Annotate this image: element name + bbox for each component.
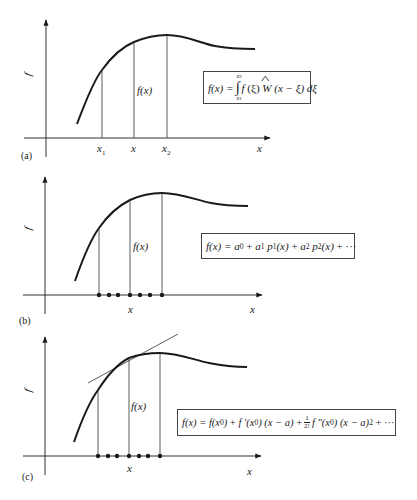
panel-a-tick-x: x (130, 142, 136, 154)
sample-point (128, 293, 132, 297)
panel-c-tangent-line (88, 334, 178, 383)
sample-point (106, 454, 110, 458)
sample-point (116, 293, 120, 297)
sample-point (137, 454, 141, 458)
panel-a-tick-x1: x1 (96, 142, 106, 157)
sample-point (96, 454, 100, 458)
formula-c-second-derivative: f ″(x (312, 417, 330, 428)
sample-point (160, 293, 164, 297)
sample-point (138, 293, 142, 297)
panel-a-x-axis-label: x (256, 142, 262, 154)
panel-c-y-label: f (21, 386, 34, 393)
formula-c-first-derivative: f ′(x (238, 417, 254, 428)
panel-b-y-label: f (21, 224, 34, 231)
formula-a-w-hat: W (262, 82, 271, 94)
panel-a-tick-x2: x2 (161, 142, 171, 157)
formula-c-lhs: f(x) = (182, 417, 206, 428)
formula-b-lhs: f(x) = (206, 240, 231, 252)
formula-c-fraction: 12! (304, 415, 310, 430)
sample-point (107, 293, 111, 297)
formula-a-w-arg: (x − ξ) dξ (274, 82, 317, 94)
formula-a-f: f (242, 82, 245, 94)
panel-a-formula-box: f(x) = ∫x2x1 f (ξ) W (x − ξ) dξ (203, 71, 311, 104)
sample-point (127, 454, 131, 458)
panel-c-tick-x: x (126, 462, 132, 474)
panel-c-label: (c) (22, 471, 33, 483)
formula-a-lhs: f(x) = (208, 82, 233, 94)
panel-b-label: (b) (19, 315, 31, 327)
panel-a-fx-label: f(x) (137, 84, 153, 97)
sample-point (158, 454, 162, 458)
sample-point (146, 454, 150, 458)
formula-c-ellipsis: + ··· (376, 417, 395, 428)
sample-point (115, 454, 119, 458)
panel-a-y-label: f (21, 70, 34, 77)
sample-point (97, 293, 101, 297)
panel-c-fx-label: f(x) (131, 400, 147, 413)
panel-b-formula-box: f(x) = a0 + a1 p1(x) + a2 p2(x) + ··· (201, 233, 355, 259)
formula-b-ellipsis: + ··· (337, 240, 357, 252)
panel-b-x-axis-label: x (249, 303, 255, 315)
formula-a-xi: (ξ) (247, 82, 259, 94)
panel-c-formula-box: f(x) = f(x0) + f ′(x0) (x − a) + 12! f ″… (177, 409, 396, 436)
integral-sign: ∫x2x1 (235, 80, 239, 95)
panel-a-label: (a) (21, 150, 32, 162)
sample-point (148, 293, 152, 297)
panel-c-x-axis-label: x (246, 465, 252, 477)
panel-b-fx-label: f(x) (133, 240, 149, 253)
panel-b-tick-x: x (127, 303, 133, 315)
